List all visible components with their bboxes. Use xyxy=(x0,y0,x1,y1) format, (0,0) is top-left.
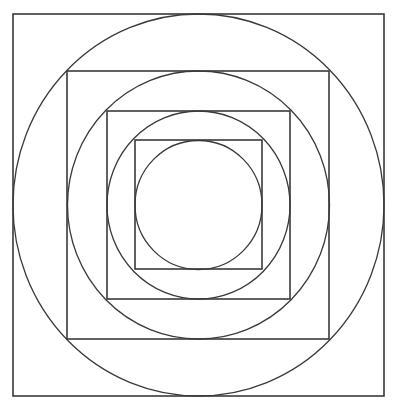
circle-4 xyxy=(135,141,262,270)
nested-shapes-diagram xyxy=(0,0,397,407)
shape-layers xyxy=(13,14,384,396)
